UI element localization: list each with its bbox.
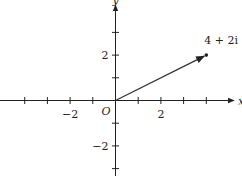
vector-arrow [116, 56, 205, 100]
y-tick-label: 2 [102, 49, 109, 62]
y-tick-label: −2 [92, 140, 108, 153]
y-axis-label: y [111, 0, 119, 7]
vector-point [205, 53, 209, 57]
x-axis-label: x [238, 95, 242, 108]
x-tick-label: 2 [157, 108, 164, 121]
complex-plane-diagram: −222−2Oxy4 + 2i [0, 0, 242, 176]
origin-label: O [101, 105, 110, 118]
x-tick-label: −2 [62, 108, 78, 121]
vector-label: 4 + 2i [204, 34, 238, 47]
